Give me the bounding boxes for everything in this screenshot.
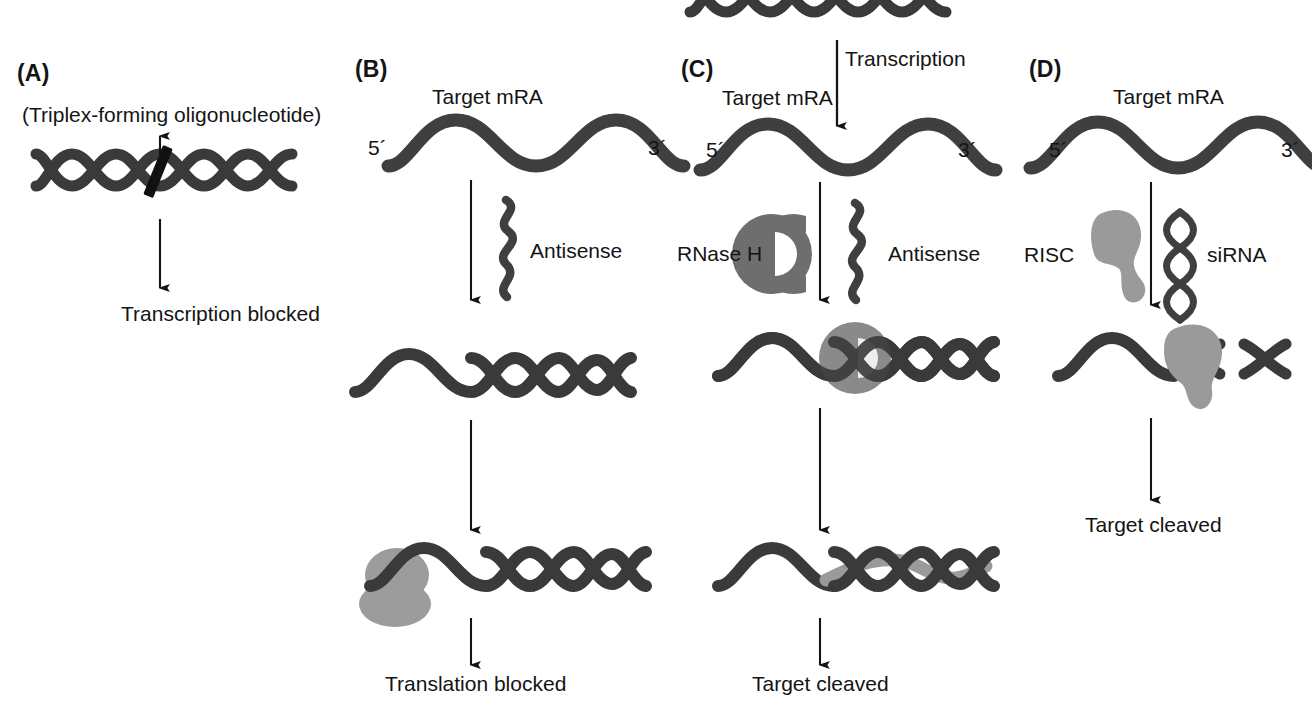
panel-a-artwork (36, 136, 292, 288)
panel-d-artwork (1030, 122, 1312, 500)
panel-label-a: (A) (17, 62, 50, 85)
panel-d-five-prime: 5´ (1049, 139, 1068, 160)
panel-d-bottom-caption: Target cleaved (1085, 514, 1222, 535)
sirna-duplex-d (1167, 212, 1194, 320)
panel-a-bottom-caption: Transcription blocked (121, 303, 320, 324)
panel-d-complex-label: RISC (1024, 244, 1074, 265)
panel-b-target-label: Target mRA (432, 86, 543, 107)
panel-c-enzyme-label: RNase H (677, 243, 762, 264)
antisense-strand-b (503, 200, 513, 297)
risc-blob (1091, 210, 1145, 302)
panel-d-agent-label: siRNA (1207, 244, 1267, 265)
panel-b-bottom-caption: Translation blocked (385, 673, 566, 694)
dna-double-helix-top-partial (690, 0, 946, 12)
panel-d-three-prime: 3´ (1281, 139, 1300, 160)
panel-a-top-caption: (Triplex-forming oligonucleotide) (22, 104, 321, 125)
panel-label-b: (B) (355, 58, 388, 81)
target-mrna-strand-c (700, 124, 996, 170)
panel-c-artwork (700, 40, 996, 665)
panel-label-d: (D) (1029, 58, 1062, 81)
panel-b-artwork (355, 120, 684, 665)
panel-c-agent-label: Antisense (888, 243, 980, 264)
panel-b-three-prime: 3´ (648, 137, 667, 158)
target-mrna-strand-b (388, 120, 684, 166)
panel-c-transcription-label: Transcription (845, 48, 966, 69)
antisense-strand-c (852, 203, 862, 300)
panel-label-c: (C) (681, 58, 714, 81)
panel-c-bottom-caption: Target cleaved (752, 673, 889, 694)
panel-b-five-prime: 5´ (368, 137, 387, 158)
risc-blob-bound (1164, 324, 1222, 409)
duplex-helix-b (355, 354, 631, 392)
panel-c-five-prime: 5´ (706, 139, 725, 160)
panel-d-target-label: Target mRA (1113, 86, 1224, 107)
cleaved-duplex-c (718, 548, 994, 586)
figure-canvas: (A) (Triplex-forming oligonucleotide) Tr… (0, 0, 1312, 717)
panel-b-agent-label: Antisense (530, 240, 622, 261)
target-mrna-strand-d (1030, 122, 1312, 168)
panel-c-three-prime: 3´ (958, 139, 977, 160)
panel-c-target-label: Target mRA (722, 87, 833, 108)
